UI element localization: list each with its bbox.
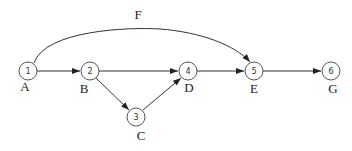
node-3: 3 C bbox=[127, 108, 145, 143]
activity-label: G bbox=[328, 81, 337, 96]
node-4: 4 D bbox=[179, 62, 197, 95]
activity-label: A bbox=[20, 79, 30, 94]
network-diagram: F 1 A 2 B 3 C 4 D 5 E 6 G bbox=[0, 0, 352, 151]
node-number: 6 bbox=[328, 67, 333, 76]
node-5: 5 E bbox=[245, 62, 263, 96]
activity-label: C bbox=[137, 128, 146, 143]
node-6: 6 G bbox=[322, 62, 340, 96]
activity-label: E bbox=[250, 81, 258, 96]
node-2: 2 B bbox=[80, 62, 99, 96]
node-number: 5 bbox=[251, 67, 256, 76]
node-number: 3 bbox=[133, 113, 138, 122]
edge-1-5-curved bbox=[34, 29, 250, 63]
activity-label: B bbox=[80, 81, 89, 96]
edge-2-3 bbox=[96, 78, 129, 110]
node-number: 4 bbox=[185, 67, 190, 76]
edge-3-4 bbox=[143, 78, 181, 110]
edge-label-f: F bbox=[134, 7, 141, 22]
node-number: 2 bbox=[87, 67, 92, 76]
node-number: 1 bbox=[25, 67, 30, 76]
activity-label: D bbox=[184, 80, 193, 95]
node-1: 1 A bbox=[19, 62, 37, 94]
